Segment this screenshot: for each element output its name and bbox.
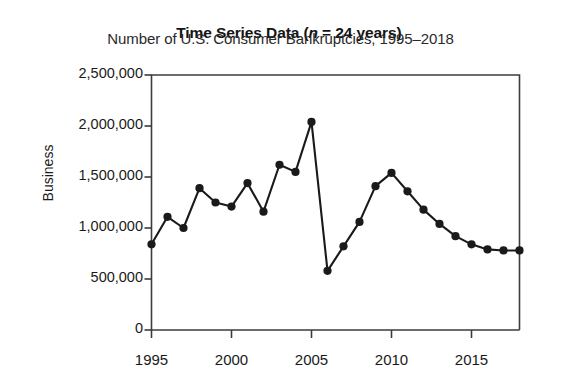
y-axis-ticks (145, 75, 152, 330)
data-point-marker (163, 213, 171, 221)
data-point-marker (515, 246, 523, 254)
data-point-marker (451, 232, 459, 240)
data-point-marker (339, 242, 347, 250)
data-point-marker (195, 184, 203, 192)
series-line-bankruptcies (152, 122, 520, 271)
x-axis-ticks (152, 330, 472, 338)
data-point-marker (243, 179, 251, 187)
data-point-marker (403, 187, 411, 195)
chart-figure: Time Series Data (n = 24 years) Number o… (0, 0, 561, 390)
data-point-marker (211, 198, 219, 206)
data-point-marker (387, 169, 395, 177)
data-point-marker (483, 245, 491, 253)
data-point-marker (371, 182, 379, 190)
data-point-marker (147, 240, 155, 248)
data-point-marker (499, 246, 507, 254)
plot-canvas (0, 0, 561, 390)
data-point-marker (323, 267, 331, 275)
data-point-marker (275, 161, 283, 169)
data-point-marker (259, 208, 267, 216)
data-point-marker (467, 240, 475, 248)
series-markers (147, 118, 523, 275)
data-point-marker (419, 206, 427, 214)
data-point-marker (227, 202, 235, 210)
data-point-marker (355, 218, 363, 226)
data-point-marker (435, 220, 443, 228)
data-point-marker (307, 118, 315, 126)
data-point-marker (179, 224, 187, 232)
data-point-marker (291, 168, 299, 176)
data-series (147, 118, 523, 275)
axis-frame (152, 75, 520, 330)
